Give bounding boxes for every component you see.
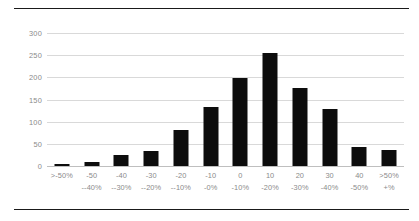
bar[interactable] bbox=[114, 155, 129, 166]
bar-slot bbox=[77, 33, 107, 166]
x-axis-tick-label-line1: -10 bbox=[205, 171, 216, 180]
x-axis-labels: >-50%-50--40%-40--30%-30--20%-20--10%-10… bbox=[47, 170, 404, 204]
x-axis-tick-label-line1: 40 bbox=[355, 171, 363, 180]
x-axis-tick-label-line2: -20% bbox=[255, 182, 285, 194]
top-divider-rule bbox=[14, 8, 409, 9]
y-axis-tick-label: 150 bbox=[29, 95, 42, 104]
plot-area: 050100150200250300 bbox=[47, 33, 404, 166]
x-axis-tick-label-line1: >50% bbox=[379, 171, 399, 180]
x-axis-tick-label-line1: -20 bbox=[175, 171, 186, 180]
x-axis-tick-label-line2: -30% bbox=[285, 182, 315, 194]
bar[interactable] bbox=[144, 151, 159, 166]
x-axis-tick-label-line2: -50% bbox=[345, 182, 375, 194]
x-axis-tick-label-line1: >-50% bbox=[51, 171, 73, 180]
x-axis-tick-label-line2: -0% bbox=[196, 182, 226, 194]
x-axis-tick-label: 30-40% bbox=[315, 170, 345, 193]
bar[interactable] bbox=[173, 130, 188, 166]
x-axis-tick-label: >50%+% bbox=[374, 170, 404, 193]
bars-group bbox=[47, 33, 404, 166]
axis-baseline bbox=[47, 166, 404, 167]
x-axis-tick-label-line2: --20% bbox=[136, 182, 166, 194]
x-axis-tick-label-line1: 30 bbox=[325, 171, 333, 180]
x-axis-tick-label-line1: -30 bbox=[146, 171, 157, 180]
bar-slot bbox=[107, 33, 137, 166]
x-axis-tick-label-line1: 10 bbox=[266, 171, 274, 180]
x-axis-tick-label-line1: 20 bbox=[296, 171, 304, 180]
bar-slot bbox=[345, 33, 375, 166]
x-axis-tick-label: 40-50% bbox=[345, 170, 375, 193]
bar[interactable] bbox=[292, 88, 307, 166]
bar-slot bbox=[255, 33, 285, 166]
bar[interactable] bbox=[382, 150, 397, 166]
bar-slot bbox=[136, 33, 166, 166]
x-axis-tick-label-line2: --30% bbox=[107, 182, 137, 194]
x-axis-tick-label: -20--10% bbox=[166, 170, 196, 193]
bar-slot bbox=[226, 33, 256, 166]
bar-slot bbox=[285, 33, 315, 166]
x-axis-tick-label-line2: --10% bbox=[166, 182, 196, 194]
y-axis-tick-label: 100 bbox=[29, 117, 42, 126]
x-axis-tick-label: 0-10% bbox=[226, 170, 256, 193]
x-axis-tick-label: >-50% bbox=[47, 170, 77, 182]
y-axis-tick-label: 0 bbox=[38, 162, 42, 171]
bar[interactable] bbox=[352, 147, 367, 166]
bar[interactable] bbox=[84, 162, 99, 166]
x-axis-tick-label: -30--20% bbox=[136, 170, 166, 193]
bar-slot bbox=[374, 33, 404, 166]
bar[interactable] bbox=[263, 53, 278, 166]
x-axis-tick-label: -40--30% bbox=[107, 170, 137, 193]
bar-slot bbox=[196, 33, 226, 166]
x-axis-tick-label-line2: --40% bbox=[77, 182, 107, 194]
bar[interactable] bbox=[203, 107, 218, 166]
x-axis-tick-label-line2: -40% bbox=[315, 182, 345, 194]
bar-slot bbox=[315, 33, 345, 166]
y-axis-tick-label: 50 bbox=[33, 139, 42, 148]
x-axis-tick-label-line2: -10% bbox=[226, 182, 256, 194]
bar-slot bbox=[47, 33, 77, 166]
y-axis-tick-label: 300 bbox=[29, 29, 42, 38]
bottom-divider-rule bbox=[14, 209, 409, 210]
x-axis-tick-label-line1: -40 bbox=[116, 171, 127, 180]
x-axis-tick-label: -10-0% bbox=[196, 170, 226, 193]
x-axis-tick-label: 10-20% bbox=[255, 170, 285, 193]
x-axis-tick-label-line1: -50 bbox=[86, 171, 97, 180]
y-axis-tick-label: 200 bbox=[29, 73, 42, 82]
y-axis-tick-label: 250 bbox=[29, 51, 42, 60]
x-axis-tick-label: 20-30% bbox=[285, 170, 315, 193]
bar[interactable] bbox=[54, 164, 69, 166]
x-axis-tick-label: -50--40% bbox=[77, 170, 107, 193]
chart-figure: 050100150200250300 >-50%-50--40%-40--30%… bbox=[0, 0, 419, 221]
bar[interactable] bbox=[322, 109, 337, 166]
x-axis-tick-label-line2: +% bbox=[374, 182, 404, 194]
bar-slot bbox=[166, 33, 196, 166]
bar[interactable] bbox=[233, 78, 248, 166]
x-axis-tick-label-line1: 0 bbox=[238, 171, 242, 180]
